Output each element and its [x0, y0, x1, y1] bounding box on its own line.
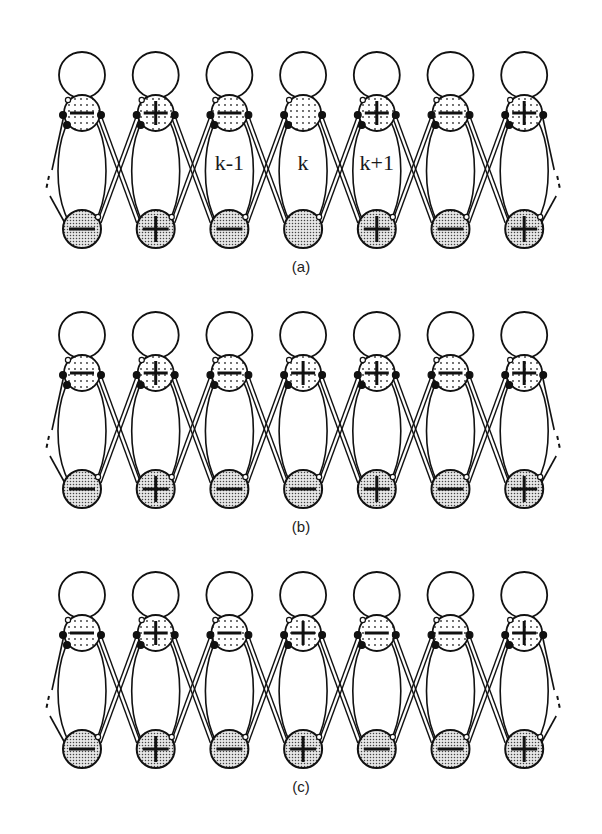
junction-dot [60, 632, 67, 639]
junction-dot [392, 372, 399, 379]
junction-dot [207, 112, 214, 119]
junction-dot [390, 474, 395, 479]
junction-dot [502, 372, 509, 379]
junction-dot [169, 474, 174, 479]
junction-dot [434, 97, 439, 102]
junction-dot [506, 642, 513, 649]
top-ring [501, 52, 547, 98]
top-ring [280, 312, 326, 358]
junction-dot [432, 642, 439, 649]
junction-dot [211, 382, 218, 389]
cross-link [97, 375, 141, 483]
junction-dot [540, 372, 547, 379]
top-ring [133, 572, 179, 618]
cell-5 [353, 312, 401, 508]
junction-dot [317, 214, 322, 219]
junction-dot [243, 474, 248, 479]
panel-c [46, 572, 560, 768]
junction-dot [65, 97, 70, 102]
junction-dot [317, 734, 322, 739]
junction-dot [540, 112, 547, 119]
cell-1 [58, 572, 106, 768]
top-ring [59, 52, 105, 98]
top-ring [354, 312, 400, 358]
junction-dot [538, 734, 543, 739]
junction-dot [390, 214, 395, 219]
junction-dot [354, 112, 361, 119]
junction-dot [434, 357, 439, 362]
junction-dot [281, 372, 288, 379]
junction-dot [133, 112, 140, 119]
cross-link [318, 635, 362, 743]
junction-dot [502, 632, 509, 639]
cell-2 [132, 312, 180, 508]
cell-4 [279, 572, 327, 768]
junction-dot [171, 372, 178, 379]
junction-dot [285, 122, 292, 129]
junction-dot [65, 357, 70, 362]
junction-dot [508, 357, 513, 362]
junction-dot [358, 382, 365, 389]
panel-b [46, 312, 560, 508]
junction-dot [65, 617, 70, 622]
junction-dot [133, 632, 140, 639]
junction-dot [506, 382, 513, 389]
top-ring [354, 572, 400, 618]
junction-dot [358, 122, 365, 129]
cell-6 [427, 572, 475, 768]
junction-dot [64, 642, 71, 649]
junction-dot [139, 357, 144, 362]
junction-dot [281, 112, 288, 119]
cell-label: k-1 [199, 150, 259, 176]
junction-dot [207, 372, 214, 379]
junction-dot [287, 97, 292, 102]
junction-dot [64, 122, 71, 129]
junction-dot [319, 372, 326, 379]
junction-dot [287, 617, 292, 622]
top-ring [206, 312, 252, 358]
junction-dot [428, 372, 435, 379]
junction-dot [95, 474, 100, 479]
junction-dot [95, 734, 100, 739]
cross-link [97, 635, 141, 743]
junction-dot [98, 112, 105, 119]
junction-dot [137, 122, 144, 129]
junction-dot [508, 617, 513, 622]
cross-link [466, 635, 510, 743]
junction-dot [245, 372, 252, 379]
top-ring [133, 52, 179, 98]
junction-dot [60, 112, 67, 119]
junction-dot [243, 734, 248, 739]
junction-dot [285, 642, 292, 649]
junction-dot [243, 214, 248, 219]
junction-dot [502, 112, 509, 119]
junction-dot [390, 734, 395, 739]
junction-dot [169, 734, 174, 739]
cell-6 [427, 312, 475, 508]
junction-dot [287, 357, 292, 362]
cross-link [97, 115, 141, 223]
junction-dot [171, 112, 178, 119]
cross-link [466, 375, 510, 483]
cell-4 [279, 312, 327, 508]
junction-dot [139, 617, 144, 622]
junction-dot [466, 112, 473, 119]
junction-dot [171, 632, 178, 639]
junction-dot [466, 632, 473, 639]
top-ring [59, 572, 105, 618]
junction-dot [428, 632, 435, 639]
junction-dot [137, 642, 144, 649]
cell-7 [500, 312, 548, 508]
panel-caption-b: (b) [271, 518, 331, 535]
top-ring [206, 52, 252, 98]
junction-dot [358, 642, 365, 649]
top-ring [428, 52, 474, 98]
junction-dot [354, 372, 361, 379]
junction-dot [464, 734, 469, 739]
junction-dot [360, 97, 365, 102]
cross-link [392, 375, 436, 483]
cell-5 [353, 572, 401, 768]
top-ring [280, 52, 326, 98]
junction-dot [281, 632, 288, 639]
panel-caption-c: (c) [271, 778, 331, 795]
